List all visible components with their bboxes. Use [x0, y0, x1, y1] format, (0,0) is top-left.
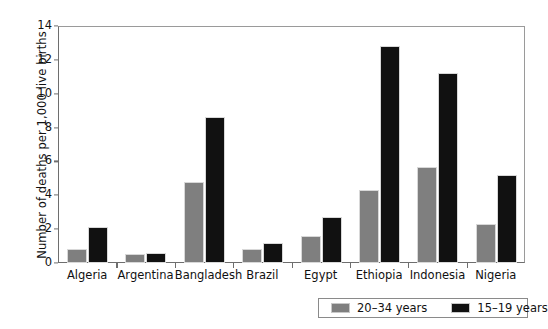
- y-axis-tick-mark: [54, 195, 59, 196]
- bar-20-34-years: [301, 236, 321, 263]
- y-axis-tick-label: 4: [28, 190, 52, 202]
- bar-15-19-years: [322, 217, 342, 263]
- bar-20-34-years: [184, 182, 204, 263]
- bar-20-34-years: [359, 190, 379, 263]
- y-axis-tick-label: 12: [28, 54, 52, 66]
- bar-group: [66, 26, 124, 263]
- bar-15-19-years: [497, 175, 517, 263]
- y-axis-tick-mark: [54, 93, 59, 94]
- bar-group: [358, 26, 416, 263]
- y-axis-tick-label: 10: [28, 88, 52, 100]
- legend-swatch-icon: [331, 303, 350, 313]
- bar-15-19-years: [205, 117, 225, 263]
- x-axis-category-label: Brazil: [233, 268, 291, 282]
- y-axis-tick-mark: [54, 25, 59, 26]
- legend-swatch-icon: [451, 303, 470, 313]
- x-axis-category-label: Algeria: [58, 268, 116, 282]
- x-axis-category-label: Bangladesh: [175, 268, 233, 282]
- bar-20-34-years: [67, 249, 87, 263]
- legend-label: 20–34 years: [357, 301, 427, 315]
- y-axis-tick-mark: [54, 127, 59, 128]
- x-axis-category-label: Argentina: [116, 268, 174, 282]
- bar-15-19-years: [263, 243, 283, 263]
- x-axis-category-label: Indonesia: [408, 268, 466, 282]
- bar-group: [416, 26, 474, 263]
- y-axis-tick-mark: [54, 262, 59, 263]
- bar-15-19-years: [146, 253, 166, 263]
- legend-entry: 15–19 years: [451, 301, 547, 315]
- bar-group: [124, 26, 182, 263]
- bar-group: [183, 26, 241, 263]
- x-axis-category-label: Ethiopia: [350, 268, 408, 282]
- bar-20-34-years: [476, 224, 496, 263]
- x-axis-category-label: Egypt: [292, 268, 350, 282]
- chart-legend: 20–34 years15–19 years: [318, 298, 528, 318]
- y-axis-tick-label: 2: [28, 223, 52, 235]
- bar-20-34-years: [417, 167, 437, 263]
- bar-15-19-years: [88, 227, 108, 263]
- x-axis-category-label: Nigeria: [467, 268, 525, 282]
- bar-15-19-years: [380, 46, 400, 263]
- bar-20-34-years: [125, 254, 145, 263]
- y-axis-tick-label: 0: [28, 257, 52, 269]
- y-axis-tick-mark: [54, 229, 59, 230]
- y-axis-tick-label: 14: [28, 20, 52, 32]
- y-axis-tick-label: 8: [28, 122, 52, 134]
- bar-20-34-years: [242, 249, 262, 263]
- y-axis-tick-label: 6: [28, 156, 52, 168]
- bar-group: [241, 26, 299, 263]
- y-axis-tick-mark: [54, 59, 59, 60]
- y-axis-tick-mark: [54, 161, 59, 162]
- legend-label: 15–19 years: [477, 301, 547, 315]
- bar-group: [300, 26, 358, 263]
- bar-15-19-years: [438, 73, 458, 263]
- legend-entry: 20–34 years: [331, 301, 427, 315]
- bar-group: [475, 26, 533, 263]
